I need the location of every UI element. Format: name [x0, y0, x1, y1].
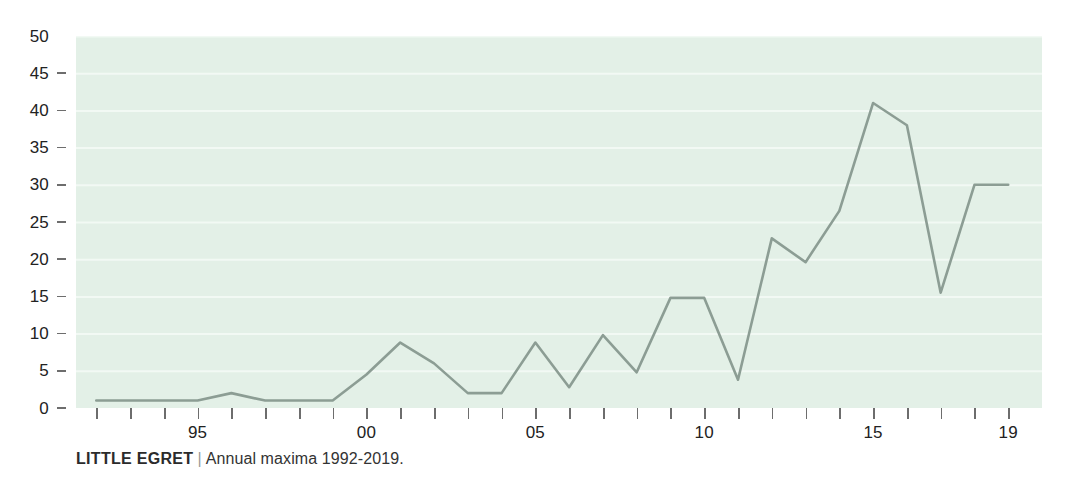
x-tick	[366, 408, 368, 419]
x-tick	[299, 408, 301, 419]
x-tick	[198, 408, 200, 419]
x-tick	[941, 408, 943, 419]
x-tick	[535, 408, 537, 419]
y-tick-dash	[57, 110, 66, 112]
caption-species: LITTLE EGRET	[76, 450, 193, 467]
gridlines	[76, 37, 1042, 409]
x-tick	[806, 408, 808, 419]
y-tick-label: 10	[30, 325, 49, 342]
x-tick	[265, 408, 267, 419]
x-tick	[468, 408, 470, 419]
y-tick-dash	[57, 296, 66, 298]
plot-area	[76, 36, 1042, 408]
chart-figure: 05101520253035404550 950005101519 LITTLE…	[0, 0, 1066, 492]
y-tick-label: 20	[30, 250, 49, 267]
caption-separator: |	[193, 450, 205, 467]
x-tick-label: 95	[188, 423, 207, 443]
x-tick-label: 05	[526, 423, 545, 443]
x-tick	[603, 408, 605, 419]
y-tick-label: 15	[30, 287, 49, 304]
y-tick-label: 45	[30, 64, 49, 81]
x-tick	[130, 408, 132, 419]
chart-caption: LITTLE EGRET|Annual maxima 1992-2019.	[76, 450, 404, 468]
y-tick-dash	[57, 370, 66, 372]
x-tick	[434, 408, 436, 419]
x-tick	[974, 408, 976, 419]
y-tick-dash	[57, 184, 66, 186]
x-tick	[839, 408, 841, 419]
y-tick-label: 50	[30, 27, 49, 44]
x-tick	[637, 408, 639, 419]
x-tick	[502, 408, 504, 419]
y-tick-dash	[57, 333, 66, 335]
y-tick-label: 25	[30, 213, 49, 230]
x-tick	[96, 408, 98, 419]
line-chart-svg	[76, 36, 1042, 408]
x-tick	[400, 408, 402, 419]
y-tick-dash	[57, 258, 66, 260]
x-tick	[670, 408, 672, 419]
x-tick	[1008, 408, 1010, 419]
y-tick-label: 35	[30, 139, 49, 156]
x-tick	[231, 408, 233, 419]
x-tick	[738, 408, 740, 419]
x-tick	[569, 408, 571, 419]
x-tick	[333, 408, 335, 419]
x-tick	[772, 408, 774, 419]
caption-subtitle: Annual maxima 1992-2019.	[206, 450, 404, 467]
x-axis: 950005101519	[0, 408, 1066, 454]
x-tick-label: 10	[695, 423, 714, 443]
y-tick-dash	[57, 35, 66, 37]
y-tick-dash	[57, 72, 66, 74]
x-tick	[164, 408, 166, 419]
x-tick	[873, 408, 875, 419]
y-tick-dash	[57, 147, 66, 149]
x-tick	[907, 408, 909, 419]
x-tick-label: 00	[357, 423, 376, 443]
y-tick-label: 5	[39, 362, 49, 379]
y-tick-label: 40	[30, 101, 49, 118]
y-tick-label: 30	[30, 176, 49, 193]
x-tick-label: 15	[863, 423, 882, 443]
x-tick-label: 19	[999, 423, 1018, 443]
y-axis: 05101520253035404550	[0, 36, 76, 408]
y-tick-dash	[57, 221, 66, 223]
x-tick	[704, 408, 706, 419]
